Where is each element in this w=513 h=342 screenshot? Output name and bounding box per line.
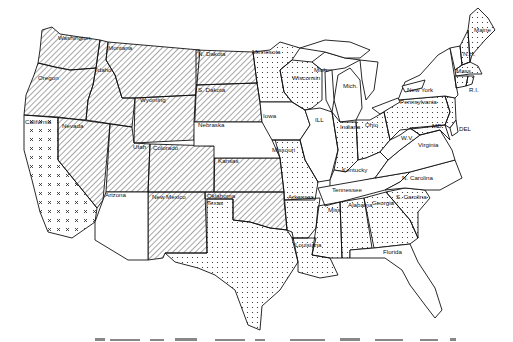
state-arizona xyxy=(95,192,148,260)
label-washington: Washington xyxy=(58,34,91,41)
label-wyoming: Wyoming xyxy=(140,96,166,103)
label-n-dakota: N. Dakota xyxy=(198,50,226,57)
label-nh: N.H. xyxy=(463,50,476,57)
lake-superior xyxy=(300,40,370,58)
label-new-mexico: New Mexico xyxy=(152,193,186,200)
label-nevada: Nevada xyxy=(62,122,84,129)
state-florida xyxy=(350,244,442,318)
state-oregon xyxy=(24,63,96,120)
label-virginia: Virginia xyxy=(418,141,439,148)
state-new-mexico xyxy=(148,192,207,260)
state-arkansas xyxy=(284,198,320,238)
label-florida: Florida xyxy=(383,248,402,255)
label-colorado: Colorado xyxy=(153,144,179,151)
label-iowa: Iowa xyxy=(263,112,277,119)
label-kentucky: Kentucky xyxy=(342,166,368,173)
label-mich: Mich. xyxy=(343,82,358,89)
label-s-carolina: S. Carolina xyxy=(396,193,427,200)
state-colorado xyxy=(148,144,215,192)
label-tennessee: Tennessee xyxy=(332,186,362,193)
label-s-dakota: S. Dakota xyxy=(198,86,226,93)
label-maine: Maine xyxy=(474,26,491,33)
label-alabama: Alabama xyxy=(348,201,373,208)
state-michigan xyxy=(334,68,362,122)
label-missouri: Missouri xyxy=(272,146,295,153)
label-ohio: Ohio xyxy=(365,121,379,128)
label-montana: Montana xyxy=(108,44,133,51)
label-ill: ILL xyxy=(315,116,324,123)
label-louisiana: Louisiana xyxy=(295,241,322,248)
caption-fragment xyxy=(95,338,456,341)
label-new-york: New York xyxy=(407,86,434,93)
label-md: MD xyxy=(432,122,442,129)
label-arizona: Arizona xyxy=(105,191,127,198)
label-california: California xyxy=(25,118,52,125)
label-minnesota: Minnesota xyxy=(252,48,281,55)
label-wv: W.V. xyxy=(401,134,414,141)
label-oregon: Oregon xyxy=(38,74,59,81)
label-oklahoma: Oklahoma xyxy=(207,192,236,199)
label-pennsylvania: Pennsylvania xyxy=(400,98,437,105)
lake-huron xyxy=(360,60,378,100)
label-georgia: Georgia xyxy=(372,199,395,206)
label-arkansas: Arkansas xyxy=(288,193,314,200)
label-ri: R.I. xyxy=(469,86,479,93)
label-miss: Miss. xyxy=(328,206,343,213)
label-kansas: Kansas xyxy=(218,157,239,164)
label-idaho: Idaho xyxy=(96,66,112,73)
lake-michigan xyxy=(325,70,334,112)
label-texas: Texas xyxy=(207,199,223,206)
label-utah: Utah xyxy=(133,143,147,150)
label-del: DEL xyxy=(459,125,472,132)
label-mich-up: Mich. xyxy=(314,66,329,73)
label-mass: Mass. xyxy=(456,67,473,74)
label-n-carolina: N. Carolina xyxy=(402,174,434,181)
label-wisconsin: Wisconsin xyxy=(292,74,321,81)
us-states-map: Washington Oregon Idaho Montana Wyoming … xyxy=(0,0,513,342)
label-indiana: Indiana xyxy=(340,123,361,130)
label-nebraska: Nebraska xyxy=(198,121,225,128)
